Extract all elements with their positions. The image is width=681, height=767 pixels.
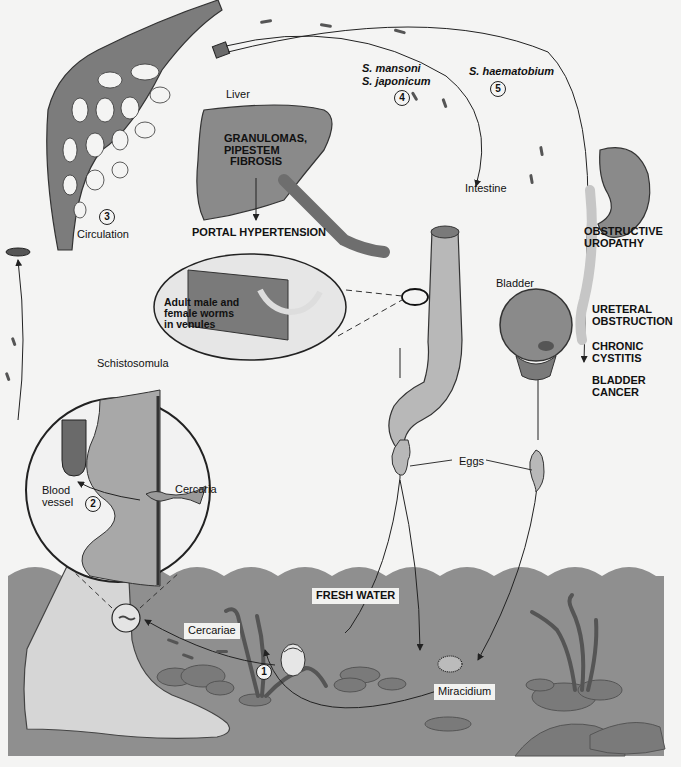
diagram-artwork xyxy=(0,0,681,767)
label-portal-hypertension: PORTAL HYPERTENSION xyxy=(192,227,326,239)
label-blood-vessel: Blood vessel xyxy=(42,485,73,508)
snail-icon xyxy=(281,644,305,676)
bladder xyxy=(500,289,572,380)
circulation-vessel-network xyxy=(6,0,230,256)
label-fresh-water: FRESH WATER xyxy=(312,588,399,604)
intestine xyxy=(389,226,462,450)
step-2-marker: 2 xyxy=(85,496,101,512)
label-bladder-cancer: BLADDER CANCER xyxy=(592,375,646,398)
label-miracidium: Miracidium xyxy=(434,684,495,700)
label-species-japonicum: S. japonicum xyxy=(362,76,430,88)
miracidium-icon xyxy=(438,656,462,672)
label-obstructive-uropathy: OBSTRUCTIVE UROPATHY xyxy=(584,226,663,249)
label-species-haematobium: S. haematobium xyxy=(469,66,554,78)
step-1-marker: 1 xyxy=(256,664,272,680)
label-eggs: Eggs xyxy=(459,456,484,468)
schistosomiasis-life-cycle-diagram: 1 2 3 4 5 Liver GRANULOMAS, PIPESTEM FIB… xyxy=(0,0,681,767)
label-chronic-cystitis: CHRONIC CYSTITIS xyxy=(592,341,643,364)
label-intestine: Intestine xyxy=(465,183,507,195)
label-schistosomula: Schistosomula xyxy=(97,358,169,370)
step-5-marker: 5 xyxy=(490,81,506,97)
label-circulation: Circulation xyxy=(77,229,129,241)
step-3-marker: 3 xyxy=(99,209,115,225)
label-species-mansoni: S. mansoni xyxy=(362,63,421,75)
label-adult-worms: Adult male and female worms in venules xyxy=(164,297,239,330)
label-cercariae: Cercariae xyxy=(184,623,240,639)
label-bladder: Bladder xyxy=(496,278,534,290)
label-ureteral-obstruction: URETERAL OBSTRUCTION xyxy=(592,304,673,327)
label-liver: Liver xyxy=(226,89,250,101)
label-liver-pathology: GRANULOMAS, PIPESTEM FIBROSIS xyxy=(224,133,307,168)
label-cercaria: Cercaria xyxy=(175,484,217,496)
step-4-marker: 4 xyxy=(394,90,410,106)
